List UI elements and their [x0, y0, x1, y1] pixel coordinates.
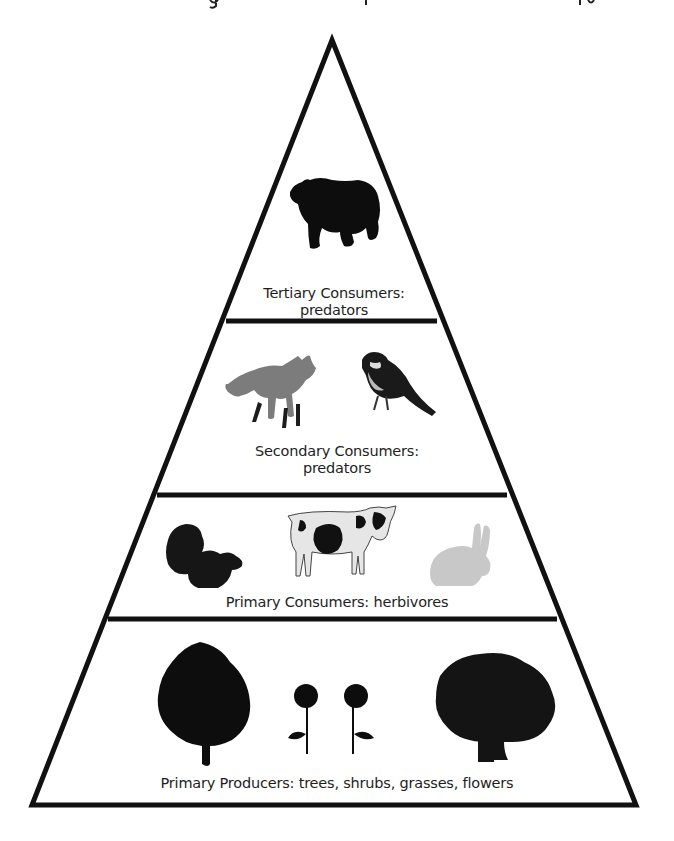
- energy-pyramid-diagram: Tertiary Consumers: predators Secondary …: [0, 0, 674, 841]
- tertiary-label: Tertiary Consumers: predators: [236, 285, 432, 319]
- tertiary-label-line1: Tertiary Consumers:: [236, 285, 432, 302]
- producers-label-line1: Primary Producers: trees, shrubs, grasse…: [120, 775, 554, 792]
- tertiary-label-line2: predators: [236, 302, 432, 319]
- primary-consumers-label-line1: Primary Consumers: herbivores: [170, 594, 504, 611]
- secondary-label-line1: Secondary Consumers:: [212, 443, 462, 460]
- secondary-label: Secondary Consumers: predators: [212, 443, 462, 477]
- primary-consumers-label: Primary Consumers: herbivores: [170, 594, 504, 611]
- secondary-label-line2: predators: [212, 460, 462, 477]
- producers-label: Primary Producers: trees, shrubs, grasse…: [120, 775, 554, 792]
- pyramid-outline: [0, 0, 674, 841]
